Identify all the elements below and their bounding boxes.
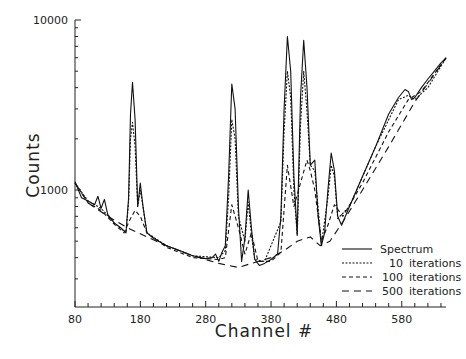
- x-tick-label: 480: [326, 313, 347, 326]
- legend-label: iterations: [409, 257, 461, 270]
- legend-label: Spectrum: [380, 243, 433, 256]
- y-tick-label: 1000: [40, 184, 68, 197]
- series-10-iterations: [75, 58, 446, 262]
- x-axis-label: Channel #: [215, 321, 313, 341]
- series-500-iterations: [75, 58, 446, 268]
- x-tick-label: 80: [68, 313, 82, 326]
- spectrum-chart: 80180280380480580100001000 Channel # Cou…: [0, 0, 466, 359]
- legend-label: 500: [382, 285, 403, 298]
- legend: Spectrum10iterations100iterations500iter…: [342, 243, 461, 298]
- legend-label: 100: [382, 271, 403, 284]
- x-tick-label: 180: [130, 313, 151, 326]
- legend-label: 10: [389, 257, 403, 270]
- legend-label: iterations: [409, 271, 461, 284]
- y-tick-label: 10000: [33, 14, 68, 27]
- series-100-iterations: [75, 58, 446, 262]
- tick-labels: 80180280380480580100001000: [33, 14, 412, 326]
- x-tick-label: 580: [391, 313, 412, 326]
- y-axis-label: Counts: [23, 132, 43, 197]
- x-tick-label: 280: [195, 313, 216, 326]
- plot-series: [75, 37, 446, 268]
- legend-label: iterations: [409, 285, 461, 298]
